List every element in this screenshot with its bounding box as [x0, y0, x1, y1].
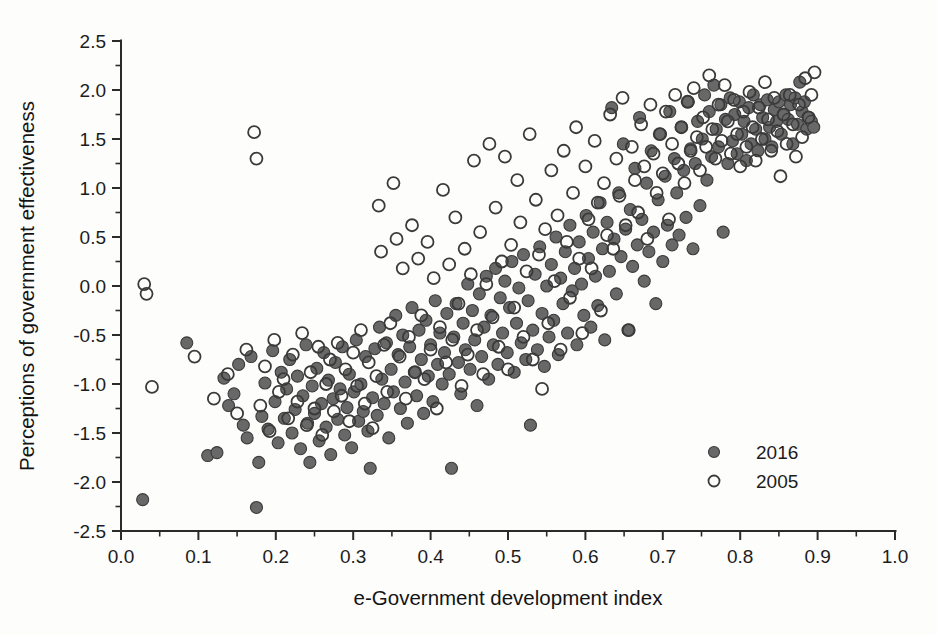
- y-tick-label: 1.0: [80, 178, 106, 199]
- data-point: [306, 380, 318, 392]
- data-point: [476, 351, 488, 363]
- data-point: [552, 209, 564, 221]
- data-point: [378, 398, 390, 410]
- data-point: [511, 317, 523, 329]
- x-tick-label: 0.4: [417, 546, 444, 567]
- y-tick-label: 2.5: [80, 31, 106, 52]
- data-point: [347, 347, 359, 359]
- data-point: [717, 226, 729, 238]
- data-point: [524, 419, 536, 431]
- data-point: [275, 366, 287, 378]
- scatter-plot-figure: 0.00.10.20.30.40.50.60.70.80.91.0-2.5-2.…: [0, 0, 937, 635]
- data-point: [418, 407, 430, 419]
- data-point: [422, 370, 434, 382]
- data-point: [211, 447, 223, 459]
- data-point: [576, 327, 588, 339]
- data-point: [346, 442, 358, 454]
- x-axis-title: e-Government development index: [354, 586, 664, 609]
- data-point: [567, 187, 579, 199]
- data-point: [375, 246, 387, 258]
- data-point: [499, 151, 511, 163]
- data-point: [248, 126, 260, 138]
- data-point: [233, 358, 245, 370]
- data-point: [603, 265, 615, 277]
- data-point: [644, 99, 656, 111]
- data-point: [446, 462, 458, 474]
- data-point: [253, 456, 265, 468]
- data-point: [589, 135, 601, 147]
- legend-label-2005: 2005: [756, 471, 798, 492]
- data-point: [570, 121, 582, 133]
- data-point: [286, 427, 298, 439]
- x-tick-label: 0.8: [727, 546, 753, 567]
- data-point: [576, 278, 588, 290]
- data-point: [517, 249, 529, 261]
- data-point: [364, 462, 376, 474]
- data-point: [437, 184, 449, 196]
- data-point: [429, 295, 441, 307]
- data-point: [397, 262, 409, 274]
- data-point: [443, 258, 455, 270]
- data-point: [687, 243, 699, 255]
- data-point: [585, 321, 597, 333]
- data-points-layer: [137, 66, 821, 513]
- data-point: [673, 229, 685, 241]
- data-point: [146, 381, 158, 393]
- data-point: [678, 177, 690, 189]
- data-point: [400, 393, 412, 405]
- data-point: [399, 376, 411, 388]
- data-point: [601, 216, 613, 228]
- data-point: [643, 246, 655, 258]
- data-point: [478, 321, 490, 333]
- data-point: [627, 260, 639, 272]
- data-point: [624, 204, 636, 216]
- legend-marker-2005: [708, 475, 719, 486]
- data-point: [558, 145, 570, 157]
- data-point: [254, 400, 266, 412]
- data-point: [415, 354, 427, 366]
- data-point: [774, 170, 786, 182]
- data-point: [790, 151, 802, 163]
- data-point: [666, 138, 678, 150]
- data-point: [291, 370, 303, 382]
- data-point: [505, 239, 517, 251]
- data-point: [703, 69, 715, 81]
- data-point: [241, 432, 253, 444]
- data-point: [571, 339, 583, 351]
- y-axis-title: Perceptions of government effectiveness: [15, 101, 38, 471]
- y-tick-label: 0.0: [80, 276, 106, 297]
- x-tick-label: 0.7: [650, 546, 676, 567]
- data-point: [501, 347, 513, 359]
- y-tick-label: -1.0: [73, 374, 106, 395]
- data-point: [562, 327, 574, 339]
- data-point: [428, 272, 440, 284]
- data-point: [522, 295, 534, 307]
- legend-marker-2016: [708, 446, 719, 457]
- data-point: [543, 331, 555, 343]
- x-tick-label: 0.5: [495, 546, 521, 567]
- data-point: [464, 363, 476, 375]
- data-point: [371, 409, 383, 421]
- data-point: [497, 327, 509, 339]
- data-point: [805, 89, 817, 101]
- x-tick-label: 0.3: [340, 546, 366, 567]
- data-point: [295, 443, 307, 455]
- data-point: [490, 202, 502, 214]
- data-point: [598, 177, 610, 189]
- data-point: [494, 292, 506, 304]
- data-point: [304, 456, 316, 468]
- data-point: [641, 177, 653, 189]
- data-point: [524, 128, 536, 140]
- data-point: [530, 194, 542, 206]
- data-point: [545, 164, 557, 176]
- data-point: [538, 360, 550, 372]
- data-point: [441, 307, 453, 319]
- data-point: [688, 82, 700, 94]
- data-point: [231, 407, 243, 419]
- series-2005: [138, 66, 820, 441]
- y-tick-label: -2.5: [73, 521, 106, 542]
- data-point: [719, 79, 731, 91]
- data-point: [471, 400, 483, 412]
- data-point: [449, 211, 461, 223]
- data-point: [641, 233, 653, 245]
